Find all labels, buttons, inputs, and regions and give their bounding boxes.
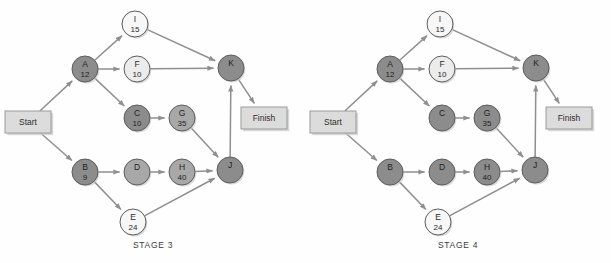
network-diagram-stage-3: StartA12I15F10C10G35B9DH40E24JKFinish — [0, 0, 306, 240]
node-duration: 12 — [386, 70, 395, 79]
node-g[interactable]: G35 — [474, 105, 501, 133]
edge-g-to-j — [496, 128, 523, 158]
edge-start-to-a — [40, 81, 72, 111]
node-k[interactable]: K — [523, 55, 550, 83]
edge-f-to-k — [150, 68, 214, 69]
node-duration: 24 — [129, 223, 138, 232]
stage-panel-3: StartA12I15F10C10G35B9DH40E24JKFinish ST… — [0, 0, 306, 263]
node-start[interactable]: Start — [310, 111, 358, 135]
node-label: K — [533, 58, 539, 68]
node-duration: 15 — [436, 25, 445, 34]
node-finish[interactable]: Finish — [241, 107, 289, 131]
node-duration: 40 — [178, 173, 187, 182]
edge-g-to-j — [191, 128, 218, 158]
network-diagram-stage-4: StartA12I15F10CG35BDH40E24JKFinish — [305, 0, 611, 240]
node-duration: 35 — [483, 119, 492, 128]
node-b[interactable]: B9 — [72, 159, 99, 187]
edge-h-to-j — [500, 171, 518, 172]
edge-a-to-i — [400, 36, 427, 61]
edge-start-to-a — [345, 81, 377, 111]
node-finish[interactable]: Finish — [546, 107, 594, 131]
node-label: Start — [324, 117, 343, 127]
node-label: H — [484, 162, 490, 172]
node-label: J — [533, 160, 537, 170]
node-label: A — [387, 59, 393, 69]
edge-start-to-b — [41, 133, 72, 161]
node-label: Finish — [558, 113, 581, 123]
node-label: E — [435, 212, 441, 222]
node-duration: 35 — [178, 119, 187, 128]
node-duration: 12 — [81, 70, 90, 79]
edge-k-to-finish — [238, 79, 254, 103]
node-layer: StartA12I15F10CG35BDH40E24JKFinish — [310, 11, 594, 237]
node-duration: 10 — [133, 119, 142, 128]
node-k[interactable]: K — [218, 55, 245, 83]
node-label: Start — [19, 117, 38, 127]
edge-k-to-finish — [543, 79, 559, 103]
edge-a-to-c — [94, 78, 124, 106]
node-label: I — [439, 14, 441, 24]
node-label: E — [130, 212, 136, 222]
node-h[interactable]: H40 — [474, 159, 501, 187]
stage-panel-4: StartA12I15F10CG35BDH40E24JKFinish STAGE… — [305, 0, 611, 263]
edge-j-to-k — [535, 85, 536, 157]
node-label: C — [439, 108, 445, 118]
edge-a-to-i — [95, 36, 122, 61]
node-label: D — [439, 162, 445, 172]
node-i[interactable]: I15 — [427, 11, 454, 39]
node-e[interactable]: E24 — [120, 209, 147, 237]
node-duration: 10 — [133, 70, 142, 79]
stage-caption-3: STAGE 3 — [0, 240, 306, 250]
node-j[interactable]: J — [522, 157, 549, 185]
node-d[interactable]: D — [429, 159, 456, 187]
node-duration: 10 — [438, 70, 447, 79]
node-label: F — [439, 59, 444, 69]
node-b[interactable]: B — [377, 159, 404, 187]
node-label: D — [134, 162, 140, 172]
node-label: I — [134, 14, 136, 24]
edge-h-to-j — [195, 171, 213, 172]
node-label: J — [228, 160, 232, 170]
edge-i-to-k — [452, 29, 520, 60]
node-duration: 9 — [83, 173, 88, 182]
edge-a-to-c — [399, 78, 429, 106]
node-duration: 24 — [434, 223, 443, 232]
node-duration: 40 — [483, 173, 492, 182]
node-label: B — [387, 162, 393, 172]
node-g[interactable]: G35 — [169, 105, 196, 133]
node-label: H — [179, 162, 185, 172]
figure-canvas: StartA12I15F10C10G35B9DH40E24JKFinish ST… — [0, 0, 611, 263]
node-d[interactable]: D — [124, 159, 151, 187]
node-i[interactable]: I15 — [122, 11, 149, 39]
node-label: B — [82, 162, 88, 172]
node-label: F — [134, 59, 139, 69]
edge-j-to-k — [230, 85, 231, 157]
node-c[interactable]: C — [429, 105, 456, 133]
node-start[interactable]: Start — [5, 111, 53, 135]
edge-f-to-k — [455, 68, 519, 69]
node-label: G — [484, 108, 491, 118]
edge-b-to-e — [94, 181, 121, 209]
node-duration: 15 — [131, 25, 140, 34]
node-label: Finish — [253, 113, 276, 123]
edge-start-to-b — [346, 133, 377, 161]
node-f[interactable]: F10 — [124, 56, 151, 84]
node-c[interactable]: C10 — [124, 105, 151, 133]
stage-caption-4: STAGE 4 — [305, 240, 611, 250]
edge-i-to-k — [147, 29, 215, 60]
node-label: K — [228, 58, 234, 68]
node-label: G — [179, 108, 186, 118]
node-layer: StartA12I15F10C10G35B9DH40E24JKFinish — [5, 11, 289, 237]
node-j[interactable]: J — [217, 157, 244, 185]
node-e[interactable]: E24 — [425, 209, 452, 237]
node-h[interactable]: H40 — [169, 159, 196, 187]
edge-b-to-e — [399, 181, 426, 209]
node-label: A — [82, 59, 88, 69]
node-f[interactable]: F10 — [429, 56, 456, 84]
node-label: C — [134, 108, 140, 118]
